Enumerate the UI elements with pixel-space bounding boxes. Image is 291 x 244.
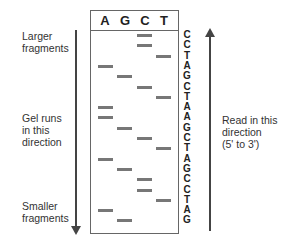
label-line: direction xyxy=(222,126,277,138)
sequence-letter: C xyxy=(181,174,193,184)
band-a xyxy=(98,209,113,212)
band-a xyxy=(98,116,113,119)
band-c xyxy=(137,44,152,47)
band-c xyxy=(137,178,152,181)
lane-label-a: A xyxy=(94,13,116,28)
label-line: Gel runs xyxy=(22,112,62,124)
sequence-letter: C xyxy=(181,185,193,195)
band-c xyxy=(137,34,152,37)
band-a xyxy=(98,65,113,68)
sequence-letter: C xyxy=(181,40,193,50)
band-g xyxy=(117,75,132,78)
sequence-letter: T xyxy=(181,143,193,153)
gel-direction-label: Gel runs in this direction xyxy=(22,112,62,148)
band-g xyxy=(117,127,132,130)
label-line: fragments xyxy=(22,42,69,54)
sequence-letter: C xyxy=(181,82,193,92)
sequence-letter: G xyxy=(181,215,193,225)
label-line: Larger xyxy=(22,30,69,42)
band-t xyxy=(156,96,171,99)
band-c xyxy=(137,86,152,89)
band-g xyxy=(117,168,132,171)
label-line: fragments xyxy=(22,212,69,224)
band-a xyxy=(98,158,113,161)
arrow-down-icon xyxy=(71,226,81,236)
read-direction-label: Read in this direction (5' to 3') xyxy=(222,114,277,150)
smaller-fragments-label: Smaller fragments xyxy=(22,200,69,224)
band-t xyxy=(156,147,171,150)
lane-header: A G C T xyxy=(91,11,178,31)
band-c xyxy=(137,189,152,192)
band-c xyxy=(137,137,152,140)
lane-label-g: G xyxy=(114,13,136,28)
band-a xyxy=(98,106,113,109)
band-g xyxy=(117,219,132,222)
label-line: direction xyxy=(22,136,62,148)
larger-fragments-label: Larger fragments xyxy=(22,30,69,54)
sequence-letter: G xyxy=(181,71,193,81)
label-line: in this xyxy=(22,124,62,136)
sequencing-gel: A G C T xyxy=(90,10,179,234)
label-line: Smaller xyxy=(22,200,69,212)
lane-label-t: T xyxy=(153,13,175,28)
band-t xyxy=(156,199,171,202)
label-line: (5' to 3') xyxy=(222,138,277,150)
label-line: Read in this xyxy=(222,114,277,126)
band-t xyxy=(156,55,171,58)
sequence-letter: A xyxy=(181,112,193,122)
